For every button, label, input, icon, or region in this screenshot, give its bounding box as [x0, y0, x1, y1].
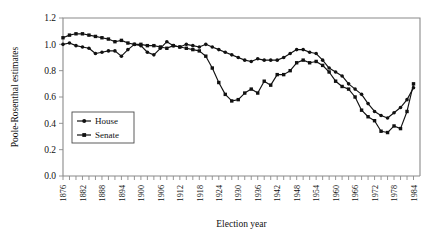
legend-swatch-marker-senate [82, 133, 86, 137]
data-point-senate [412, 82, 415, 85]
data-point-senate [68, 33, 71, 36]
data-point-house [100, 50, 104, 54]
data-point-house [191, 44, 195, 48]
data-point-senate [172, 44, 175, 47]
x-axis-tick-label: 1918 [196, 185, 205, 201]
x-axis-tick-label: 1876 [59, 185, 68, 201]
data-point-senate [74, 32, 77, 35]
y-axis-tick-label: 0.0 [44, 171, 56, 181]
data-point-house [230, 53, 234, 57]
data-point-house [399, 106, 403, 110]
x-axis-tick-label: 1906 [157, 185, 166, 201]
data-point-house [223, 50, 227, 54]
data-point-house [405, 98, 409, 102]
data-point-house [392, 111, 396, 115]
data-point-senate [81, 32, 84, 35]
data-point-house [236, 56, 240, 60]
data-point-senate [230, 99, 233, 102]
data-point-senate [360, 108, 363, 111]
data-point-senate [100, 36, 103, 39]
data-point-house [152, 53, 156, 57]
data-point-house [204, 43, 208, 47]
data-point-senate [61, 36, 64, 39]
data-point-senate [321, 64, 324, 67]
data-point-senate [327, 70, 330, 73]
data-point-house [269, 58, 273, 62]
x-axis-tick-label: 1966 [351, 185, 360, 201]
y-axis-tick-label: 0.8 [44, 66, 56, 76]
data-point-house [327, 66, 331, 70]
data-point-senate [113, 40, 116, 43]
x-axis-tick-label: 1894 [118, 185, 127, 201]
data-point-house [288, 52, 292, 56]
x-axis-tick-label: 1972 [371, 185, 380, 201]
data-point-house [249, 60, 253, 64]
data-point-senate [269, 83, 272, 86]
data-point-senate [373, 119, 376, 122]
data-point-house [353, 87, 357, 91]
data-point-senate [295, 61, 298, 64]
data-point-senate [366, 115, 369, 118]
data-point-house [107, 49, 111, 53]
data-point-senate [87, 33, 90, 36]
data-point-house [126, 48, 130, 52]
data-point-senate [178, 45, 181, 48]
data-point-house [185, 43, 189, 47]
x-axis-tick-label: 1912 [176, 185, 185, 201]
data-point-senate [165, 47, 168, 50]
data-point-house [210, 45, 214, 49]
x-axis-tick-label: 1936 [254, 185, 263, 201]
data-point-senate [263, 80, 266, 83]
data-point-senate [347, 87, 350, 90]
data-point-senate [204, 54, 207, 57]
legend-swatch-marker-house [82, 119, 86, 123]
data-point-senate [107, 37, 110, 40]
legend-label-house: House [95, 116, 118, 126]
data-point-house [243, 58, 247, 62]
data-point-senate [243, 91, 246, 94]
data-point-senate [250, 87, 253, 90]
data-point-senate [237, 98, 240, 101]
y-axis-tick-label: 0.4 [44, 119, 56, 129]
data-point-senate [198, 49, 201, 52]
x-axis-tick-label: 1924 [215, 185, 224, 201]
x-axis-tick-label: 1900 [137, 185, 146, 201]
x-axis-tick-label: 1942 [273, 185, 282, 201]
data-point-house [340, 74, 344, 78]
data-point-senate [146, 44, 149, 47]
x-axis-tick-label: 1978 [390, 185, 399, 201]
legend-label-senate: Senate [95, 130, 119, 140]
data-point-house [379, 114, 383, 118]
x-axis-tick-label: 1948 [293, 185, 302, 201]
data-point-house [360, 93, 364, 97]
data-point-senate [379, 130, 382, 133]
x-axis-tick-label: 1930 [234, 185, 243, 201]
data-point-senate [308, 61, 311, 64]
data-point-senate [191, 48, 194, 51]
data-point-senate [276, 73, 279, 76]
data-point-house [120, 54, 124, 58]
y-axis-tick-label: 0.2 [44, 145, 56, 155]
data-point-senate [139, 43, 142, 46]
data-point-senate [120, 39, 123, 42]
data-point-house [61, 43, 65, 47]
data-point-senate [340, 85, 343, 88]
data-point-senate [185, 47, 188, 50]
data-point-house [68, 41, 72, 45]
y-axis-tick-label: 1.0 [44, 40, 56, 50]
data-point-senate [288, 69, 291, 72]
x-axis-tick-label: 1882 [79, 185, 88, 201]
line-chart: 0.00.20.40.60.81.01.21876188218881894190… [0, 0, 444, 235]
data-point-house [165, 40, 169, 44]
x-axis-tick-label: 1888 [98, 185, 107, 201]
data-point-house [217, 48, 221, 52]
data-point-senate [301, 58, 304, 61]
data-point-house [113, 49, 117, 53]
data-point-senate [334, 80, 337, 83]
data-point-senate [282, 73, 285, 76]
data-point-senate [159, 45, 162, 48]
data-point-house [366, 102, 370, 106]
series-line-house [63, 42, 414, 118]
data-point-senate [94, 35, 97, 38]
data-point-senate [386, 131, 389, 134]
